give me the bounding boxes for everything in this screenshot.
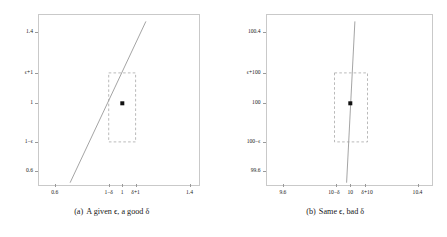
figure-subplots-row: 0.6 1−ϵ 1 ϵ+1 1.4 0.6 1−δ 1 δ+1 1.4 xyxy=(0,0,447,237)
function-curve-a xyxy=(70,21,146,182)
plot-graphics-b xyxy=(224,0,447,200)
plot-area-b: 99.6 100−ϵ 100 ϵ+100 100.4 9.6 10−δ 10 δ… xyxy=(224,0,447,200)
subfigure-a: 0.6 1−ϵ 1 ϵ+1 1.4 0.6 1−δ 1 δ+1 1.4 xyxy=(0,0,224,237)
subfigure-b: 99.6 100−ϵ 100 ϵ+100 100.4 9.6 10−δ 10 δ… xyxy=(224,0,447,237)
caption-a: (a)A given ϵ, a good δ xyxy=(0,207,224,216)
plot-graphics-a xyxy=(0,0,224,200)
caption-a-label: (a) xyxy=(74,207,83,216)
caption-b-label: (b) xyxy=(306,207,316,216)
caption-b-text: Same ϵ, bad δ xyxy=(319,207,364,216)
caption-a-text: A given ϵ, a good δ xyxy=(86,207,149,216)
center-point-marker-a xyxy=(120,102,123,105)
caption-b: (b)Same ϵ, bad δ xyxy=(224,207,447,216)
epsilon-delta-box-a xyxy=(109,73,136,142)
center-point-marker-b xyxy=(349,102,352,105)
epsilon-delta-box-b xyxy=(334,73,367,142)
plot-area-a: 0.6 1−ϵ 1 ϵ+1 1.4 0.6 1−δ 1 δ+1 1.4 xyxy=(0,0,224,200)
